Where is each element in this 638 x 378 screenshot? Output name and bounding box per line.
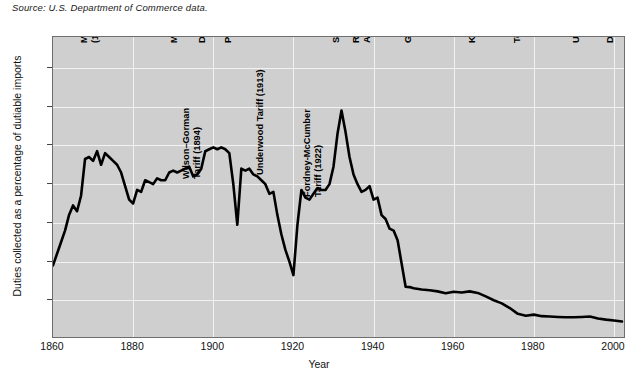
chart-annotation: Agreements Act (1934) [362, 36, 372, 43]
y-tick-mark [47, 222, 52, 223]
chart-annotation: Wilson–Gorman [181, 108, 191, 179]
y-tick-mark [47, 183, 52, 184]
chart-annotation: Fordney-McCumber [302, 109, 312, 197]
chart-annotation: Tokyo Round of GATT (1979) [512, 36, 522, 43]
y-tick-mark [47, 106, 52, 107]
chart-annotation: Tariff (1894) [192, 127, 202, 179]
x-tick-label: 1900 [190, 340, 234, 352]
chart-annotation: Morrill and War Tariffs [79, 36, 89, 43]
source-note: Source: U.S. Department of Commerce data… [12, 2, 208, 13]
chart-annotation: Tariff (1922) [313, 145, 323, 197]
plot-area: Morrill and War Tariffs(1861–1864)McKinl… [52, 36, 625, 338]
x-tick-label: 1920 [270, 340, 314, 352]
chart-annotation: Payne–Aldrich Tariff (1909) [223, 36, 233, 43]
data-line-layer [53, 37, 625, 338]
chart-annotation: Kennedy Round of GATT (1967) [467, 36, 477, 43]
chart-annotation: Uruguay Round of GATT (1993) [571, 36, 581, 43]
chart-annotation: GATT (1947) [403, 36, 413, 43]
x-tick-label: 1960 [431, 340, 475, 352]
chart-annotation: Smoot-Hawley Tariff (1930) [331, 36, 341, 43]
y-tick-mark [47, 299, 52, 300]
chart-annotation: Underwood Tariff (1913) [255, 69, 265, 175]
chart-annotation: Dingley Tariff (1897) [197, 36, 207, 43]
x-tick-label: 2000 [591, 340, 635, 352]
x-axis-title: Year [0, 358, 638, 370]
x-tick-label: 1880 [110, 340, 154, 352]
x-tick-label: 1980 [511, 340, 555, 352]
data-series-line [53, 111, 622, 322]
tariff-rate-chart: Source: U.S. Department of Commerce data… [0, 0, 638, 378]
chart-annotation: (1861–1864) [90, 36, 100, 43]
x-tick-label: 1860 [30, 340, 74, 352]
y-tick-mark [47, 144, 52, 145]
y-axis-title: Duties collected as a percentage of duti… [11, 26, 23, 326]
chart-annotation: Reciprocal Trade [351, 36, 361, 43]
x-tick-label: 1940 [351, 340, 395, 352]
chart-annotation: Doha Round of WTO begins (2001) [605, 36, 615, 43]
y-tick-mark [47, 67, 52, 68]
chart-annotation: McKinley Tariff (1890) [169, 36, 179, 43]
y-tick-mark [47, 261, 52, 262]
